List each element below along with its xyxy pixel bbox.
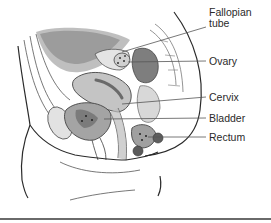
posterior-structures (132, 24, 183, 122)
bottom-divider (0, 218, 271, 220)
leader-cervix (122, 97, 206, 104)
bladder (65, 103, 112, 141)
label-rectum: Rectum (209, 132, 245, 143)
label-cervix: Cervix (209, 92, 239, 103)
label-fallopian-tube: Fallopian tube (209, 7, 252, 29)
ovary-tube-region (95, 49, 130, 70)
label-ovary: Ovary (209, 56, 237, 67)
anatomy-diagram: Fallopian tube Ovary Cervix Bladder Rect… (0, 0, 271, 223)
rectum (131, 125, 163, 156)
label-bladder: Bladder (209, 113, 245, 124)
